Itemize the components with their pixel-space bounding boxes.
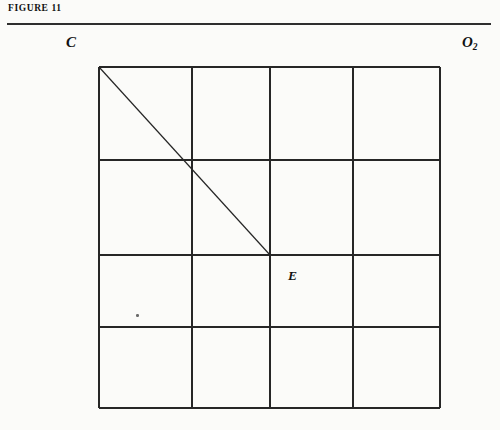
grid-diagram <box>0 0 500 430</box>
page-speck-mark <box>136 314 139 317</box>
figure-page: FIGURE 11 C O2 E <box>0 0 500 430</box>
point-label-e: E <box>288 268 297 284</box>
diagonal-segment-c-to-e <box>99 67 270 255</box>
grid-vertical-lines <box>99 67 440 408</box>
